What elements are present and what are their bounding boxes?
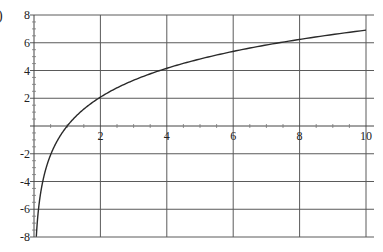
x-tick-label: 6 — [230, 129, 236, 143]
x-tick-label: 8 — [297, 129, 303, 143]
y-tick-label: 2 — [24, 91, 30, 105]
y-tick-label: 4 — [24, 64, 30, 78]
panel-label: ) — [0, 8, 3, 24]
x-tick-label: 2 — [97, 129, 103, 143]
x-tick-label: 10 — [360, 129, 372, 143]
x-tick-label: 4 — [164, 129, 170, 143]
y-tick-label: 8 — [24, 8, 30, 22]
y-tick-labels: 8642-2-4-6-8 — [20, 8, 30, 244]
y-tick-label: -6 — [20, 202, 30, 216]
axes — [30, 15, 374, 237]
y-tick-label: 6 — [24, 36, 30, 50]
y-tick-label: -4 — [20, 175, 30, 189]
data-curve — [36, 30, 366, 237]
x-tick-labels: 246810 — [97, 129, 372, 143]
y-tick-label: -2 — [20, 147, 30, 161]
y-tick-label: -8 — [20, 230, 30, 244]
log-function-chart: ) 246810 8642-2-4-6-8 — [0, 0, 383, 252]
